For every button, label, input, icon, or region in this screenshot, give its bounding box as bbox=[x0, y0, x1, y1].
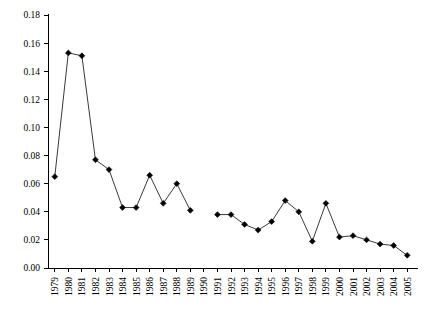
x-axis: 1979198019811982198319841985198619871988… bbox=[48, 268, 418, 296]
x-tick-label: 1995 bbox=[267, 277, 277, 296]
x-tick-label: 1991 bbox=[213, 277, 223, 296]
data-point-marker bbox=[377, 241, 383, 247]
data-point-marker bbox=[255, 227, 261, 233]
data-point-marker bbox=[133, 205, 139, 211]
x-tick-label: 2005 bbox=[403, 277, 413, 296]
x-tick-label: 2003 bbox=[376, 277, 386, 296]
x-tick-label: 1989 bbox=[186, 277, 196, 296]
data-series bbox=[52, 50, 410, 258]
data-point-marker bbox=[364, 237, 370, 243]
data-point-marker bbox=[350, 233, 356, 239]
x-tick-label: 1983 bbox=[105, 277, 115, 296]
data-point-marker bbox=[269, 219, 275, 225]
y-tick-label: 0.10 bbox=[23, 123, 40, 133]
x-tick-label: 1992 bbox=[227, 277, 237, 296]
data-point-marker bbox=[52, 174, 58, 180]
x-tick-label: 2000 bbox=[335, 277, 345, 296]
line-chart: 0.000.020.040.060.080.100.120.140.160.18… bbox=[0, 0, 432, 309]
x-tick-label: 1984 bbox=[118, 277, 128, 296]
data-point-marker bbox=[215, 212, 221, 218]
data-point-marker bbox=[147, 172, 153, 178]
x-tick-label: 1990 bbox=[199, 277, 209, 296]
x-tick-label: 1981 bbox=[77, 277, 87, 296]
data-point-marker bbox=[323, 200, 329, 206]
data-point-marker bbox=[79, 53, 85, 59]
x-tick-label: 1998 bbox=[308, 277, 318, 296]
data-point-marker bbox=[187, 207, 193, 213]
x-tick-label: 1986 bbox=[145, 277, 155, 296]
y-tick-label: 0.04 bbox=[23, 207, 40, 217]
y-tick-label: 0.06 bbox=[23, 179, 40, 189]
y-axis: 0.000.020.040.060.080.100.120.140.160.18 bbox=[23, 10, 48, 273]
x-tick-label: 1999 bbox=[321, 277, 331, 296]
x-tick-label: 2001 bbox=[349, 277, 359, 296]
chart-container: 0.000.020.040.060.080.100.120.140.160.18… bbox=[0, 0, 432, 309]
x-tick-label: 1988 bbox=[172, 277, 182, 296]
x-tick-label: 1979 bbox=[50, 277, 60, 296]
data-point-marker bbox=[65, 50, 71, 56]
y-tick-label: 0.16 bbox=[23, 39, 40, 49]
x-tick-label: 1987 bbox=[159, 277, 169, 296]
data-point-marker bbox=[160, 200, 166, 206]
x-tick-label: 1982 bbox=[91, 277, 101, 296]
data-point-marker bbox=[174, 181, 180, 187]
x-tick-label: 1980 bbox=[64, 277, 74, 296]
series-line-segment bbox=[217, 201, 407, 256]
data-point-marker bbox=[120, 205, 126, 211]
data-point-marker bbox=[337, 234, 343, 240]
x-tick-label: 2004 bbox=[389, 277, 399, 296]
y-tick-label: 0.02 bbox=[23, 235, 40, 245]
y-tick-label: 0.12 bbox=[23, 95, 40, 105]
y-tick-label: 0.18 bbox=[23, 10, 40, 20]
x-tick-label: 1993 bbox=[240, 277, 250, 296]
data-point-marker bbox=[309, 238, 315, 244]
x-tick-label: 1997 bbox=[294, 277, 304, 296]
y-tick-label: 0.00 bbox=[23, 263, 40, 273]
x-tick-label: 1996 bbox=[281, 277, 291, 296]
x-tick-label: 1994 bbox=[254, 277, 264, 296]
x-tick-label: 1985 bbox=[132, 277, 142, 296]
series-line-segment bbox=[55, 53, 191, 210]
x-tick-label: 2002 bbox=[362, 277, 372, 296]
y-tick-label: 0.08 bbox=[23, 151, 40, 161]
y-tick-label: 0.14 bbox=[23, 67, 40, 77]
